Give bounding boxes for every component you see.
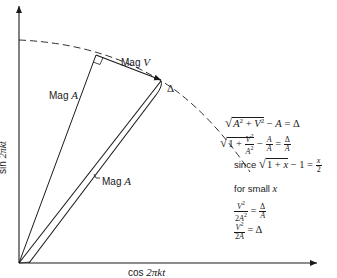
x-axis-label: cos 2πkt: [128, 266, 165, 278]
mag-a-bracket: [94, 174, 100, 178]
equation-1: √A2 + V2 − A = Δ: [225, 116, 300, 130]
resultant-vector-line-1: [19, 81, 161, 263]
mag-a-vector: [19, 55, 96, 263]
delta-label: Δ: [167, 83, 174, 94]
mag-a-lower-label: Mag A: [102, 175, 131, 187]
equation-2: √1 + V2A2 − AA = ΔA: [220, 133, 291, 155]
equation-4: for small x: [234, 184, 277, 195]
mag-v-label: Mag V: [121, 56, 150, 68]
equation-6: V22A = Δ: [234, 221, 262, 241]
equation-5: V22A2 = ΔA: [234, 200, 266, 222]
mag-a-upper-label: Mag A: [49, 89, 78, 101]
y-axis-label: sin 2πkt: [0, 141, 8, 174]
equation-3: since √1 + x − 1 = x2: [234, 157, 322, 174]
resultant-vector-line-2: [29, 95, 156, 263]
